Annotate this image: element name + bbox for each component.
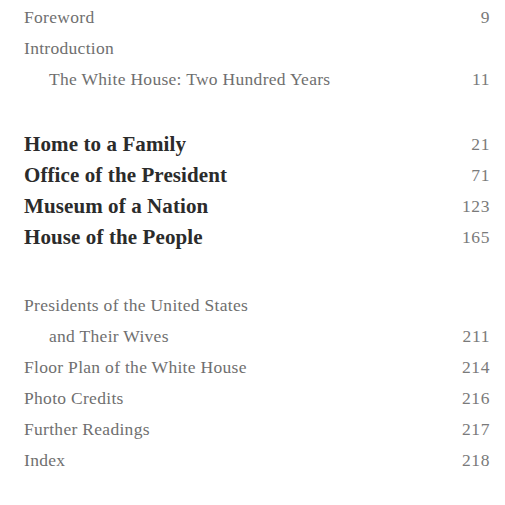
toc-entry[interactable]: Office of the President 71 [0,163,505,194]
toc-entry-page-number: 123 [462,196,490,217]
toc-group-front-matter: Foreword 9 Introduction The White House:… [0,0,505,100]
toc-entry[interactable]: Presidents of the United States [0,295,505,326]
toc-entry-page-number: 214 [462,357,490,378]
toc-entry[interactable]: Introduction [0,38,505,69]
toc-entry-label: Introduction [24,38,114,59]
toc-entry-label: Office of the President [24,163,227,188]
toc-entry-label: The White House: Two Hundred Years [49,69,330,90]
toc-entry-label: House of the People [24,225,203,250]
toc-entry-label: Floor Plan of the White House [24,357,247,378]
toc-entry[interactable]: House of the People 165 [0,225,505,256]
toc-entry[interactable]: Floor Plan of the White House 214 [0,357,505,388]
toc-entry[interactable]: The White House: Two Hundred Years 11 [0,69,505,100]
toc-list: Foreword 9 Introduction The White House:… [0,0,505,481]
toc-entry-page-number: 9 [481,7,490,28]
toc-entry-page-number: 71 [471,165,490,186]
toc-entry-page-number: 218 [462,450,490,471]
toc-entry[interactable]: Home to a Family 21 [0,132,505,163]
toc-entry-page-number: 11 [472,69,490,90]
toc-entry-page-number: 211 [463,326,490,347]
toc-entry-page-number: 21 [471,134,490,155]
toc-entry-label: Home to a Family [24,132,186,157]
toc-entry-page-number: 165 [462,227,490,248]
toc-entry[interactable]: Further Readings 217 [0,419,505,450]
toc-entry-label: Further Readings [24,419,150,440]
toc-entry-label: Photo Credits [24,388,124,409]
toc-entry[interactable]: and Their Wives 211 [0,326,505,357]
toc-entry[interactable]: Museum of a Nation 123 [0,194,505,225]
toc-entry[interactable]: Index 218 [0,450,505,481]
toc-entry-label: Museum of a Nation [24,194,208,219]
toc-group-chapters: Home to a Family 21 Office of the Presid… [0,100,505,256]
toc-entry[interactable]: Foreword 9 [0,7,505,38]
toc-entry-label: and Their Wives [49,326,169,347]
toc-entry-page-number: 216 [462,388,490,409]
toc-group-back-matter: Presidents of the United States and Thei… [0,256,505,481]
toc-entry[interactable]: Photo Credits 216 [0,388,505,419]
toc-entry-label: Presidents of the United States [24,295,248,316]
toc-entry-page-number: 217 [462,419,490,440]
table-of-contents-page: Foreword 9 Introduction The White House:… [0,0,505,505]
toc-entry-label: Index [24,450,65,471]
toc-entry-label: Foreword [24,7,94,28]
